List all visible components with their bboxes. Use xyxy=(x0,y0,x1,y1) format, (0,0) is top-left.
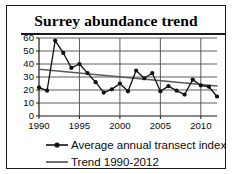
svg-text:1990: 1990 xyxy=(28,120,49,131)
legend-label: Average annual transect index xyxy=(71,139,226,151)
svg-text:2010: 2010 xyxy=(190,120,211,131)
legend-label: Trend 1990-2012 xyxy=(71,156,159,168)
line-chart-svg: 0102030405060 19901995200020052010 xyxy=(15,34,219,134)
x-axis-tick-labels: 19901995200020052010 xyxy=(28,120,211,131)
y-axis-tick-labels: 0102030405060 xyxy=(23,34,34,121)
svg-text:10: 10 xyxy=(23,97,34,108)
svg-text:40: 40 xyxy=(23,58,34,69)
plot-area: 0102030405060 19901995200020052010 xyxy=(15,34,219,134)
svg-text:2000: 2000 xyxy=(109,120,130,131)
svg-text:60: 60 xyxy=(23,34,34,43)
svg-text:1995: 1995 xyxy=(69,120,90,131)
chart-title: Surrey abundance trend xyxy=(7,12,225,30)
svg-text:20: 20 xyxy=(23,84,34,95)
legend-item-trend-1990-2012: Trend 1990-2012 xyxy=(21,153,221,170)
svg-text:2005: 2005 xyxy=(150,120,171,131)
line-with-marker-icon xyxy=(45,139,69,151)
chart-frame: Surrey abundance trend 0102030405060 199… xyxy=(6,5,226,169)
chart-legend: Average annual transect index Trend 1990… xyxy=(21,136,221,170)
svg-text:50: 50 xyxy=(23,45,34,56)
legend-item-average-annual-transect-index: Average annual transect index xyxy=(21,136,221,153)
chart-figure: Surrey abundance trend 0102030405060 199… xyxy=(0,0,232,174)
plain-line-icon xyxy=(45,156,69,168)
svg-text:30: 30 xyxy=(23,71,34,82)
